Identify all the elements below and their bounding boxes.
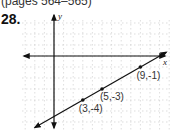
coordinate-graph: xy (3,-4)(5,-3)(9,-1): [0, 0, 176, 140]
y-axis-label: y: [57, 11, 62, 21]
point-label: (5,-3): [100, 91, 124, 102]
point-label: (9,-1): [136, 70, 160, 81]
data-point: [139, 65, 143, 69]
data-points: (3,-4)(5,-3)(9,-1): [79, 65, 161, 114]
data-point: [81, 98, 85, 102]
x-axis-label: x: [162, 57, 167, 67]
point-label: (3,-4): [79, 103, 103, 114]
